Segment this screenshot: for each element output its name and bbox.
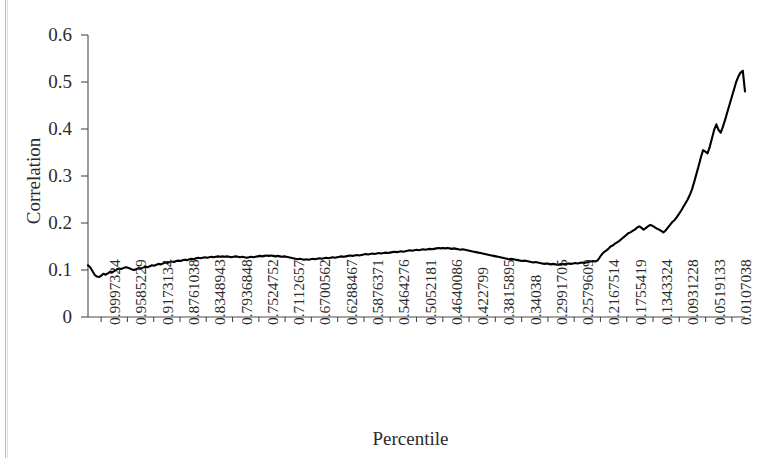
data-series-group <box>88 71 745 277</box>
chart-figure: 00.10.20.30.40.50.6 0.99973240.95852290.… <box>0 0 759 458</box>
x-axis-title-text: Percentile <box>311 428 449 450</box>
x-axis-tick-label: 0.7936848 <box>239 259 255 325</box>
x-axis-tick-label: 0.9173134 <box>160 259 176 325</box>
y-axis-tick-label: 0 <box>20 307 72 326</box>
y-axis-tick-label: 0.6 <box>20 25 72 44</box>
x-axis-tick-label: 0.422799 <box>475 267 491 325</box>
x-axis-title: Percentile <box>0 428 759 450</box>
y-axis-title: Correlation <box>23 111 45 251</box>
x-axis-tick-label: 0.1343324 <box>659 259 675 325</box>
x-axis-tick-label: 0.6288467 <box>344 259 360 325</box>
x-axis-tick-label: 0.4640086 <box>449 259 465 325</box>
y-axis-tick-label: 0.1 <box>20 260 72 279</box>
x-axis-tick-label: 0.6700562 <box>317 259 333 325</box>
x-axis-tick-label: 0.8761038 <box>186 259 202 325</box>
plot-canvas <box>0 0 759 458</box>
x-axis-tick-label: 0.9997324 <box>107 259 123 325</box>
y-axis-tick-label: 0.5 <box>20 72 72 91</box>
x-axis-tick-label: 0.34038 <box>528 275 544 325</box>
x-axis-tick-label: 0.5052181 <box>423 259 439 325</box>
x-axis-tick-label: 0.7112657 <box>291 260 307 325</box>
y-axis-ticks <box>81 35 88 317</box>
x-axis-tick-label: 0.0519133 <box>712 259 728 325</box>
x-axis-tick-label: 0.2579609 <box>580 259 596 325</box>
correlation-line <box>88 71 745 277</box>
x-axis-tick-label: 0.2167514 <box>606 259 622 325</box>
x-axis-tick-label: 0.8348943 <box>212 259 228 325</box>
x-axis-tick-label: 0.1755419 <box>633 259 649 325</box>
x-axis-tick-label: 0.5876371 <box>370 259 386 325</box>
x-axis-tick-label: 0.5464276 <box>396 259 412 325</box>
x-axis-tick-label: 0.7524752 <box>265 259 281 325</box>
x-axis-tick-label: 0.3815895 <box>501 259 517 325</box>
x-axis-tick-label: 0.2991705 <box>554 259 570 325</box>
x-axis-tick-label: 0.0931228 <box>685 259 701 325</box>
x-axis-tick-label: 0.0107038 <box>738 259 754 325</box>
x-axis-tick-label: 0.9585229 <box>133 259 149 325</box>
